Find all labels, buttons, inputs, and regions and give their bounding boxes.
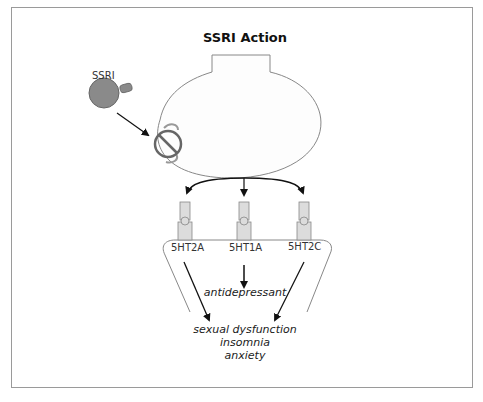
receptor-label-5ht1a: 5HT1A <box>229 242 262 253</box>
ssri-arrow <box>117 113 148 135</box>
side-effect-sexual-dysfunction: sexual dysfunction <box>180 323 310 336</box>
receptor-5ht1a-icon <box>237 202 251 240</box>
therapeutic-effect-label: antidepressant <box>195 286 295 299</box>
serotonin-release-arrows <box>187 178 303 195</box>
receptor-label-5ht2a: 5HT2A <box>171 242 204 253</box>
side-effect-insomnia: insomnia <box>180 336 310 349</box>
side-effect-anxiety: anxiety <box>180 349 310 362</box>
receptor-5ht2c-icon <box>297 202 311 240</box>
ssri-label: SSRI <box>92 70 115 81</box>
diagram-title: SSRI Action <box>200 30 290 45</box>
presynaptic-neuron <box>158 55 321 178</box>
receptor-5ht2a-icon <box>178 202 192 240</box>
ssri-molecule-icon <box>89 78 133 108</box>
receptor-label-5ht2c: 5HT2C <box>288 241 321 252</box>
